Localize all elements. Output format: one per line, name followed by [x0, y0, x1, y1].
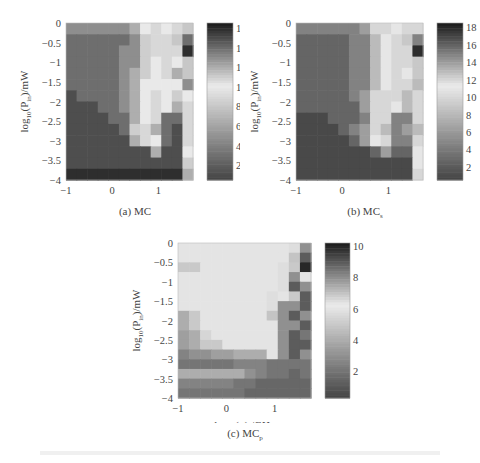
heatmap-cell — [296, 90, 307, 102]
caption-c-sub: p — [259, 434, 263, 442]
heatmap-cell — [108, 23, 119, 35]
heatmap-cell — [200, 340, 212, 350]
heatmap-cell — [200, 282, 212, 292]
heatmap-cell — [391, 23, 402, 35]
heatmap-cell — [381, 135, 392, 147]
heatmap-cell — [256, 369, 268, 379]
heatmap-cell — [402, 34, 413, 46]
heatmap-cell — [222, 321, 234, 331]
heatmap-cell — [381, 113, 392, 125]
heatmap-cell — [108, 102, 119, 114]
heatmap-cell — [172, 135, 183, 147]
x-tick-label: 0 — [110, 185, 115, 196]
heatmap-cell — [161, 146, 172, 158]
heatmap-cell — [189, 321, 201, 331]
heatmap-cell — [87, 79, 98, 91]
heatmap-cell — [108, 90, 119, 102]
heatmap-cell — [172, 146, 183, 158]
heatmap-cell — [130, 124, 141, 136]
heatmap-cell — [245, 388, 257, 398]
heatmap-cell — [412, 45, 423, 57]
heatmap-cell — [233, 282, 245, 292]
heatmap-cell — [77, 57, 88, 69]
heatmap-cell — [300, 321, 312, 331]
heatmap-cell — [349, 169, 360, 181]
heatmap-cell — [307, 34, 318, 46]
caption-b-sub: s — [380, 212, 383, 220]
heatmap-cell — [182, 34, 193, 46]
heatmap-cell — [370, 34, 381, 46]
heatmap-cell — [87, 135, 98, 147]
heatmap-cell — [222, 388, 234, 398]
heatmap-cell — [328, 23, 339, 35]
heatmap-cell — [233, 350, 245, 360]
heatmap-cell — [307, 102, 318, 114]
heatmap-cell — [391, 169, 402, 181]
heatmap-cell — [119, 113, 130, 125]
heatmap-cell — [182, 124, 193, 136]
heatmap-cell — [307, 57, 318, 69]
heatmap-cell — [412, 68, 423, 80]
heatmap-cell — [370, 57, 381, 69]
heatmap-cell — [87, 23, 98, 35]
y-tick-label: −2 — [280, 97, 291, 108]
heatmap-cell — [108, 169, 119, 181]
heatmap-cell — [182, 57, 193, 69]
y-tick-label: −3.5 — [42, 155, 61, 166]
heatmap-cell — [370, 135, 381, 147]
heatmap-cell — [140, 57, 151, 69]
heatmap-cell — [119, 45, 130, 57]
heatmap-cell — [172, 57, 183, 69]
heatmap-cell — [349, 135, 360, 147]
colorbar-tick-label: 14 — [466, 57, 477, 68]
heatmap-cell — [296, 102, 307, 114]
heatmap-cell — [151, 79, 162, 91]
heatmap-cell — [161, 169, 172, 181]
heatmap-cell — [66, 169, 77, 181]
heatmap-cell — [267, 388, 279, 398]
heatmap-cell — [172, 79, 183, 91]
heatmap-cell — [328, 124, 339, 136]
heatmap-cell — [140, 34, 151, 46]
heatmap-cell — [245, 272, 257, 282]
heatmap-cell — [151, 45, 162, 57]
heatmap-cell — [300, 301, 312, 311]
heatmap-cell — [200, 330, 212, 340]
heatmap-cell — [211, 272, 223, 282]
heatmap-cell — [108, 79, 119, 91]
heatmap-cell — [130, 68, 141, 80]
caption-b-text: (b) MC — [347, 205, 380, 217]
heatmap-cell — [233, 388, 245, 398]
heatmap-cell — [98, 158, 109, 170]
heatmap-cell — [233, 311, 245, 321]
heatmap-cell — [77, 23, 88, 35]
y-tick-label: −3.5 — [272, 155, 291, 166]
heatmap-cell — [222, 272, 234, 282]
heatmap-cell — [98, 113, 109, 125]
heatmap-cell — [245, 253, 257, 263]
heatmap-cell — [140, 79, 151, 91]
heatmap-cell — [349, 102, 360, 114]
heatmap-cell — [391, 79, 402, 91]
heatmap-cell — [222, 291, 234, 301]
heatmap-cell — [178, 388, 190, 398]
heatmap-cell — [87, 102, 98, 114]
heatmap-cell — [77, 169, 88, 181]
heatmap-cell — [296, 124, 307, 136]
y-tick-label: −3 — [50, 136, 61, 147]
heatmap-cell — [108, 113, 119, 125]
heatmap-cell — [98, 102, 109, 114]
heatmap-cell — [278, 321, 290, 331]
colorbar-tick-label: 6 — [353, 304, 358, 315]
heatmap-cell — [360, 135, 371, 147]
heatmap-cell — [200, 321, 212, 331]
heatmap-cell — [211, 282, 223, 292]
figure-caption-faded — [40, 451, 440, 455]
heatmap-cell — [289, 388, 301, 398]
heatmap-cell — [245, 291, 257, 301]
heatmap-cell — [256, 301, 268, 311]
heatmap-cell — [300, 291, 312, 301]
heatmap-cell — [381, 124, 392, 136]
heatmap-cell — [370, 124, 381, 136]
heatmap-cell — [289, 253, 301, 263]
